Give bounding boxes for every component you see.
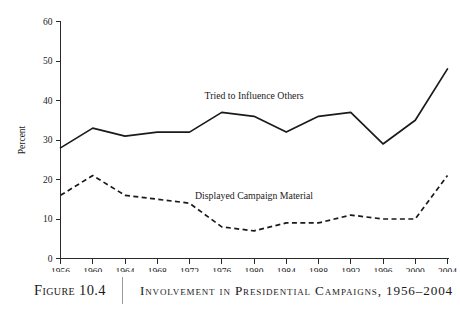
y-tick-label: 50	[43, 56, 53, 66]
figure-caption: Figure 10.4 Involvement in Presidential …	[0, 272, 460, 309]
y-tick-label: 10	[43, 214, 53, 224]
caption-title: Involvement in Presidential Campaigns, 1…	[140, 283, 453, 299]
line-chart-svg: 0102030405060 19561960196419681972197619…	[0, 0, 460, 272]
caption-divider	[122, 277, 123, 304]
caption-figure-number: Figure 10.4	[34, 282, 106, 299]
x-axis-ticks: 1956196019641968197219761980198419881992…	[51, 259, 457, 273]
y-axis-title: Percent	[17, 125, 27, 154]
chart-series-labels: Tried to Influence OthersDisplayed Campa…	[195, 90, 313, 202]
y-tick-label: 0	[48, 254, 53, 264]
y-axis-ticks: 0102030405060	[43, 17, 61, 264]
series-line-dashed	[61, 176, 448, 231]
series-annotation-label: Tried to Influence Others	[205, 90, 304, 101]
figure-container: 0102030405060 19561960196419681972197619…	[0, 0, 460, 309]
series-annotation-label: Displayed Campaign Material	[195, 190, 313, 201]
y-tick-label: 30	[43, 135, 53, 145]
chart-plot-area: 0102030405060 19561960196419681972197619…	[0, 0, 460, 272]
series-line-solid	[61, 69, 448, 148]
y-tick-label: 60	[43, 17, 53, 27]
y-tick-label: 20	[43, 175, 53, 185]
y-tick-label: 40	[43, 96, 53, 106]
